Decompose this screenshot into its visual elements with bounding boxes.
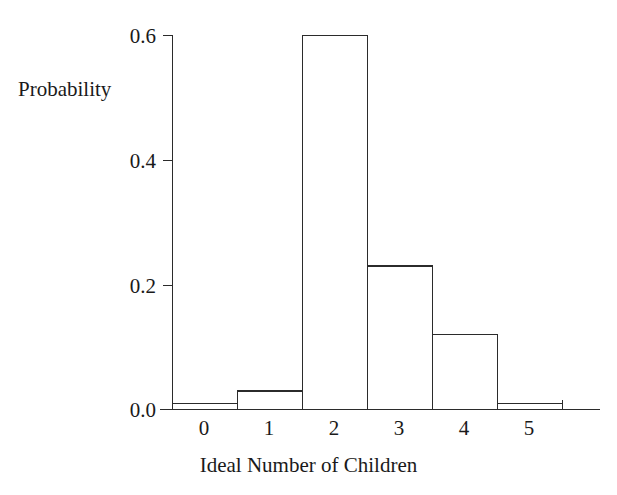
histogram-chart: Probability Ideal Number of Children 0.6… <box>0 0 617 495</box>
histogram-bar <box>238 391 303 410</box>
histogram-bar <box>498 403 563 409</box>
plot-area <box>0 0 617 495</box>
histogram-bar <box>173 403 238 409</box>
bar-series <box>173 36 563 410</box>
histogram-bar <box>368 266 433 409</box>
histogram-bar <box>433 335 498 410</box>
histogram-bar <box>303 36 368 410</box>
